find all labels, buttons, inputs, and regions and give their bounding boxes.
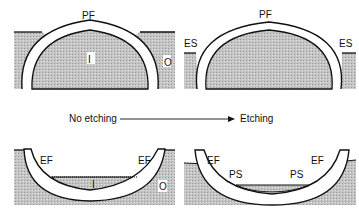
label-ef-right-bottom-left: EF <box>138 155 151 166</box>
label-es-right: ES <box>339 38 353 49</box>
label-outer-bottom-left: O <box>159 181 167 192</box>
label-ps-left: PS <box>229 169 243 180</box>
label-etching: Etching <box>240 113 273 124</box>
label-ef-right-bottom-right: EF <box>311 155 324 166</box>
label-no-etching: No etching <box>69 113 117 124</box>
label-ef-left-bottom-left: EF <box>40 155 53 166</box>
freeze-fracture-diagram: PF I O PF ES ES No etching Etching EF EF… <box>0 0 359 214</box>
panel-bottom-left <box>14 149 175 205</box>
label-es-left: ES <box>184 38 198 49</box>
label-inner-top-left: I <box>88 54 91 65</box>
label-ps-right: PS <box>290 169 304 180</box>
arrow-head-icon <box>228 116 235 122</box>
panel-top-left <box>14 20 175 89</box>
panel-top-right <box>184 22 356 89</box>
label-pf-top-left: PF <box>82 10 95 21</box>
label-outer-top-left: O <box>164 57 172 68</box>
label-ef-left-bottom-right: EF <box>207 155 220 166</box>
label-inner-bottom-left: I <box>92 179 95 190</box>
label-pf-top-right: PF <box>259 9 272 20</box>
